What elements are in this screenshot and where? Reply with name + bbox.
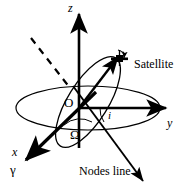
nodes-line-label: Nodes line [79,165,131,177]
inclination-label: i [108,110,111,121]
satellite-label: Satellite [134,58,173,70]
origin-label: O [64,96,73,109]
vernal-equinox-label: γ [10,163,16,176]
y-axis-label: y [167,117,172,129]
x-axis-label: x [12,146,17,158]
raan-label: Ω [70,128,80,141]
orbital-elements-diagram: z y x γ O Ω i Satellite Nodes line [0,0,184,186]
dashed-line [31,38,70,88]
z-axis-label: z [68,2,73,14]
diagram-canvas [0,0,184,186]
